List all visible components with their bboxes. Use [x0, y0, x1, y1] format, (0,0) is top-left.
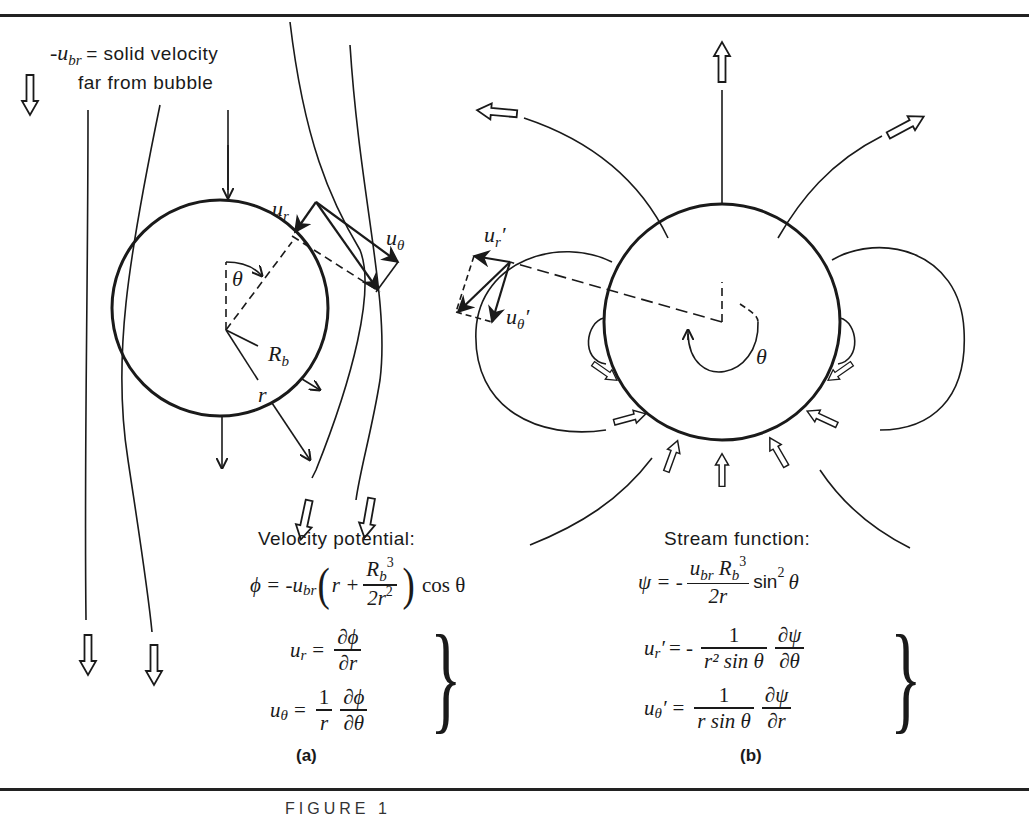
u-theta-prime-equation: uθ′ = 1r sin θ ∂ψ∂r	[644, 678, 795, 738]
bubble-flow-diagram	[0, 0, 1029, 815]
label-u-r: ur	[272, 196, 289, 222]
legend-symbol: -u	[50, 40, 68, 65]
label-u-r-prime: ur′	[484, 222, 506, 248]
u-r-prime-equation: ur′ = - 1r² sin θ ∂ψ∂θ	[644, 618, 808, 678]
brace-b: }	[890, 618, 922, 738]
u-theta-equation-a: uθ = 1r ∂ϕ∂θ	[270, 680, 371, 740]
solid-flow-arrow-icon	[22, 75, 38, 115]
panel-b-drawing	[408, 42, 964, 565]
panel-b-label: (b)	[740, 746, 762, 766]
label-r: r	[258, 382, 267, 408]
legend-line1: = solid velocity	[86, 43, 218, 64]
stream-function-equation: ψ = - ubr Rb3 2r sin2 θ	[638, 552, 799, 612]
legend-line2: far from bubble	[78, 72, 213, 94]
velocity-potential-equation: ϕ = -ubr ( r + Rb3 2r2 ) cos θ	[250, 555, 465, 615]
label-theta-a: θ	[232, 266, 243, 292]
panel-a-label: (a)	[296, 746, 317, 766]
label-theta-b: θ	[756, 344, 767, 370]
figure-caption: FIGURE 1	[285, 800, 391, 815]
u-r-equation-a: ur = ∂ϕ∂r	[290, 620, 365, 680]
legend-label: -ubr = solid velocity	[50, 40, 218, 66]
brace-a: }	[430, 618, 462, 738]
stream-function-title: Stream function:	[664, 528, 810, 550]
label-Rb: Rb	[268, 341, 289, 367]
label-u-theta-prime: uθ′	[506, 304, 529, 330]
velocity-potential-title: Velocity potential:	[258, 528, 415, 550]
label-u-theta: uθ	[386, 225, 404, 251]
